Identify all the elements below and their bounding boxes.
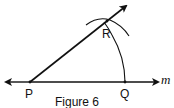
label-r: R (102, 27, 111, 41)
point-r (106, 20, 109, 23)
point-q (124, 81, 127, 84)
point-p (29, 81, 32, 84)
figure-caption: Figure 6 (55, 95, 99, 108)
ray-pr (30, 6, 126, 82)
label-p: P (25, 87, 33, 101)
label-m: m (161, 72, 170, 87)
construction-diagram: P Q R m Figure 6 (0, 0, 174, 108)
label-q: Q (120, 87, 129, 101)
